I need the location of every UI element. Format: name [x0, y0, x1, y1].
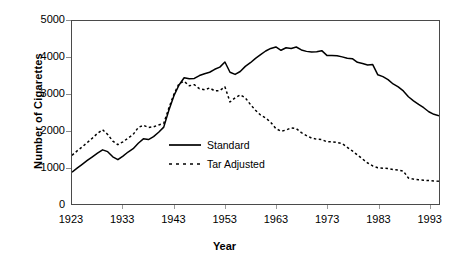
x-tick-label: 1943 [146, 214, 202, 225]
y-tick-label: 5000 [19, 14, 65, 25]
series-lines [72, 21, 439, 204]
legend-item-standard: Standard [168, 135, 265, 154]
y-tick-label: 0 [19, 199, 65, 210]
y-tick-label: 1000 [19, 162, 65, 173]
x-tick-label: 1993 [402, 214, 449, 225]
x-tick-mark [174, 205, 175, 209]
x-axis-title: Year [0, 240, 449, 252]
legend-label-standard: Standard [207, 139, 250, 151]
chart-container: Number of Cigarettes Year 01000200030004… [0, 0, 449, 268]
legend-item-tar-adjusted: Tar Adjusted [168, 154, 265, 173]
y-tick-label: 3000 [19, 88, 65, 99]
x-tick-label: 1933 [94, 214, 150, 225]
x-tick-label: 1963 [248, 214, 304, 225]
y-tick-label: 4000 [19, 51, 65, 62]
x-tick-label: 1983 [351, 214, 407, 225]
x-tick-label: 1953 [197, 214, 253, 225]
x-tick-mark [225, 205, 226, 209]
plot-area [71, 20, 440, 205]
legend-key-solid-line [168, 140, 202, 150]
chart-legend: Standard Tar Adjusted [168, 135, 265, 173]
legend-label-tar-adjusted: Tar Adjusted [207, 158, 265, 170]
y-axis-title: Number of Cigarettes [32, 21, 44, 201]
x-tick-label: 1973 [299, 214, 355, 225]
y-tick-label: 2000 [19, 125, 65, 136]
x-tick-label: 1923 [43, 214, 99, 225]
x-tick-mark [379, 205, 380, 209]
legend-key-dotted-line [168, 159, 202, 169]
x-tick-mark [276, 205, 277, 209]
x-tick-mark [430, 205, 431, 209]
x-tick-mark [327, 205, 328, 209]
x-tick-mark [122, 205, 123, 209]
